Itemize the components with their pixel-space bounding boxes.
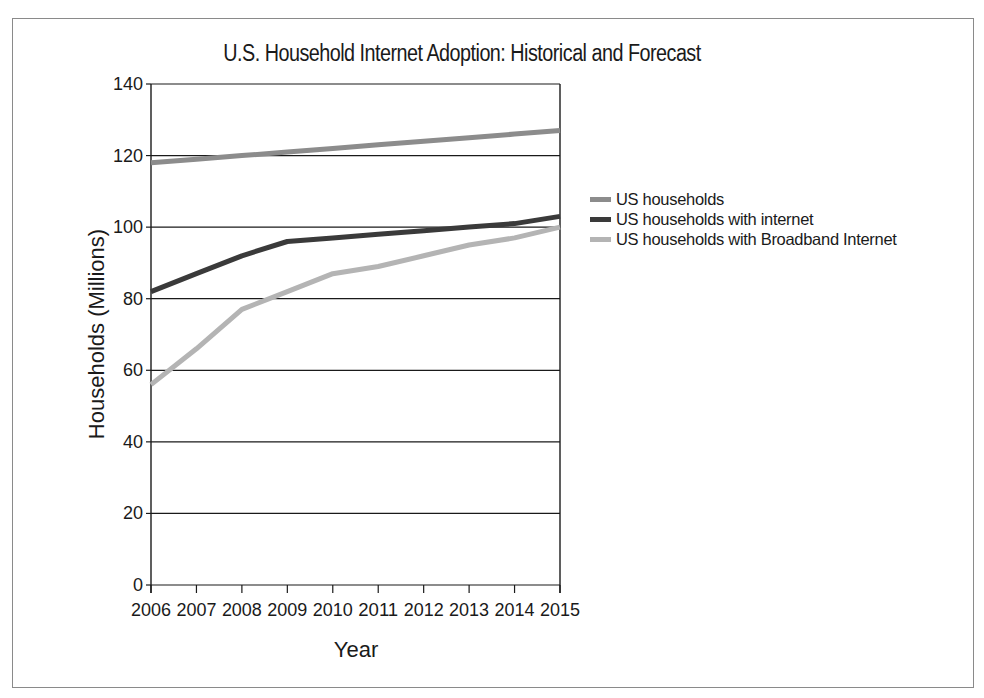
x-axis-label: Year [334, 637, 378, 662]
y-axis-label: Households (Millions) [84, 229, 109, 439]
y-tick-label: 80 [123, 289, 143, 309]
legend-swatch-icon [590, 237, 611, 242]
legend-item-us-households-broadband: US households with Broadband Internet [590, 229, 897, 249]
x-tick-label: 2011 [358, 600, 398, 620]
legend-item-us-households-internet: US households with internet [590, 209, 897, 229]
x-tick-label: 2006 [131, 600, 171, 620]
x-axis-ticks: 2006200720082009201020112012201320142015 [131, 585, 580, 620]
legend-item-us-households: US households [590, 189, 897, 209]
y-tick-label: 20 [123, 503, 143, 523]
y-axis-ticks: 020406080100120140 [113, 74, 151, 595]
x-tick-label: 2015 [540, 600, 580, 620]
x-tick-label: 2012 [404, 600, 444, 620]
x-tick-label: 2013 [449, 600, 489, 620]
x-tick-label: 2014 [495, 600, 535, 620]
plot-area: 020406080100120140 200620072008200920102… [0, 0, 984, 698]
x-tick-label: 2009 [267, 600, 307, 620]
data-lines [151, 131, 560, 385]
x-tick-label: 2008 [222, 600, 262, 620]
x-tick-label: 2010 [313, 600, 353, 620]
legend-label: US households [616, 190, 724, 209]
legend-swatch-icon [590, 217, 611, 222]
legend-swatch-icon [590, 197, 611, 202]
y-tick-label: 140 [113, 74, 143, 94]
y-tick-label: 40 [123, 432, 143, 452]
legend: US households US households with interne… [590, 189, 897, 249]
x-tick-label: 2007 [176, 600, 216, 620]
series-line-2 [151, 227, 560, 385]
series-line-0 [151, 131, 560, 163]
y-tick-label: 100 [113, 217, 143, 237]
y-tick-label: 120 [113, 146, 143, 166]
legend-label: US households with Broadband Internet [616, 230, 897, 249]
y-tick-label: 60 [123, 360, 143, 380]
legend-label: US households with internet [616, 210, 813, 229]
y-tick-label: 0 [133, 575, 143, 595]
